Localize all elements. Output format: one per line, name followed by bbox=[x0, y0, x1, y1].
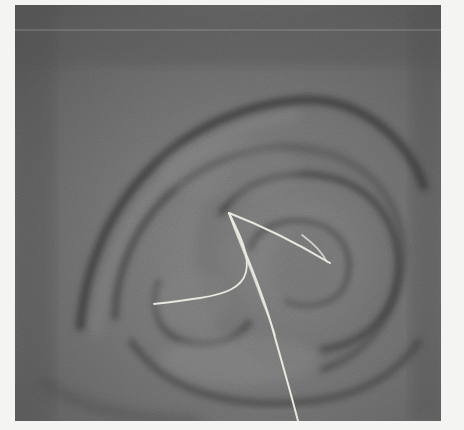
endoscopy-image bbox=[15, 5, 441, 421]
lumen-rendering bbox=[15, 5, 441, 421]
